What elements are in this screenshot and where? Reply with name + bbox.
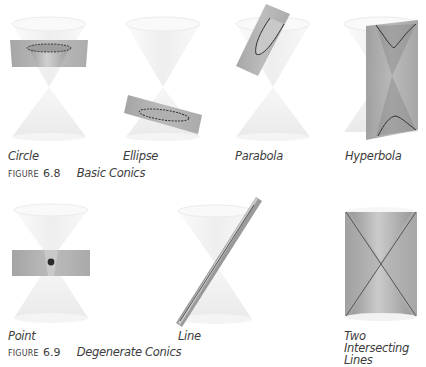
- ellipse-label: Ellipse: [123, 150, 158, 162]
- figure-6-9-caption: FIGURE 6.9 Degenerate Conics: [8, 345, 181, 359]
- caption-title: Basic Conics: [77, 166, 145, 180]
- cone-ellipse-section-icon: [120, 12, 206, 142]
- ellipse-diagram: [120, 12, 206, 142]
- caption-prefix: FIGURE: [8, 170, 39, 179]
- line-diagram: [172, 195, 264, 333]
- caption-title: Degenerate Conics: [77, 345, 181, 359]
- label-line-2: Lines: [344, 354, 426, 366]
- two-intersecting-lines-diagram: [340, 200, 426, 330]
- caption-number: 6.9: [43, 346, 61, 359]
- point-diagram: [8, 200, 94, 330]
- circle-label: Circle: [8, 150, 39, 162]
- parabola-label: Parabola: [235, 150, 283, 162]
- cone-point-section-icon: [8, 200, 94, 330]
- cone-circle-section-icon: [6, 12, 92, 142]
- cone-line-section-icon: [172, 195, 264, 333]
- line-label: Line: [178, 330, 201, 342]
- circle-diagram: [6, 12, 92, 142]
- two-intersecting-lines-label: Two Intersecting Lines: [344, 330, 426, 366]
- cone-two-lines-section-icon: [340, 200, 426, 330]
- caption-number: 6.8: [43, 167, 61, 180]
- hyperbola-label: Hyperbola: [345, 150, 401, 162]
- figure-6-8-caption: FIGURE 6.8 Basic Conics: [8, 166, 145, 180]
- point-label: Point: [8, 330, 35, 342]
- caption-prefix: FIGURE: [8, 349, 39, 358]
- cone-parabola-section-icon: [230, 2, 316, 142]
- hyperbola-diagram: [340, 12, 426, 144]
- cone-hyperbola-section-icon: [340, 12, 426, 144]
- parabola-diagram: [230, 2, 316, 142]
- label-line-1: Two Intersecting: [344, 330, 426, 354]
